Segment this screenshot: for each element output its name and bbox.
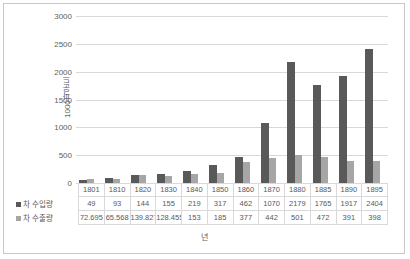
data-table-export-cell: 139.827 — [130, 211, 156, 225]
data-table-import-cell: 49 — [79, 197, 105, 211]
bar-group — [128, 16, 154, 183]
data-table-year-cell: 1840 — [182, 183, 208, 197]
data-table-year-cell: 1801 — [79, 183, 105, 197]
data-table-year-cell: 1890 — [336, 183, 362, 197]
legend-item-export: 차 수출량 — [14, 211, 79, 225]
bar-import[interactable] — [261, 123, 269, 183]
bar-export[interactable] — [217, 173, 225, 183]
data-table-export-cell: 398 — [362, 211, 388, 225]
bar-group — [310, 16, 336, 183]
x-axis-title: 년 — [4, 231, 404, 242]
bar-group — [284, 16, 310, 183]
data-table-year-cell: 1850 — [207, 183, 233, 197]
data-table-export-cell: 472 — [310, 211, 336, 225]
bar-import[interactable] — [287, 62, 295, 183]
data-table-export-cell: 501 — [285, 211, 311, 225]
data-table-export-cell: 65.568 — [104, 211, 130, 225]
bar-group — [180, 16, 206, 183]
bar-import[interactable] — [209, 165, 217, 183]
bar-group — [362, 16, 388, 183]
data-table-year-cell: 1860 — [233, 183, 259, 197]
data-table-year-cell: 1820 — [130, 183, 156, 197]
bar-group — [102, 16, 128, 183]
bar-import[interactable] — [131, 175, 139, 183]
bar-export[interactable] — [321, 157, 329, 183]
bar-export[interactable] — [243, 162, 251, 183]
data-table-year-cell: 1895 — [362, 183, 388, 197]
y-tick-label: 500 — [38, 151, 72, 160]
data-table-year-cell: 1830 — [156, 183, 182, 197]
data-table-export-cell: 185 — [207, 211, 233, 225]
chart-data-table: 1801181018201830184018501860187018801885… — [14, 183, 388, 225]
bar-group — [258, 16, 284, 183]
bar-export[interactable] — [191, 174, 199, 183]
data-table-import-cell: 2404 — [362, 197, 388, 211]
data-table-import-cell: 219 — [182, 197, 208, 211]
data-table-import-cell: 155 — [156, 197, 182, 211]
bar-export[interactable] — [295, 155, 303, 183]
bars-layer — [76, 16, 388, 183]
bar-group — [336, 16, 362, 183]
data-table-import-cell: 1765 — [310, 197, 336, 211]
data-table-year-cell: 1870 — [259, 183, 285, 197]
bar-import[interactable] — [235, 157, 243, 183]
data-table-import-cell: 144 — [130, 197, 156, 211]
bar-export[interactable] — [165, 176, 173, 183]
data-table-row-export: 차 수출량 72.69565.568139.827128.45515318537… — [14, 211, 388, 225]
data-table-export-cell: 72.695 — [79, 211, 105, 225]
data-table-year-cell: 1810 — [104, 183, 130, 197]
data-table-export-cell: 128.455 — [156, 211, 182, 225]
data-table-import-cell: 93 — [104, 197, 130, 211]
data-table-header-row: 1801181018201830184018501860187018801885… — [14, 183, 388, 197]
y-tick-label: 2500 — [38, 39, 72, 48]
legend-label-import: 차 수입량 — [23, 200, 53, 209]
bar-group — [76, 16, 102, 183]
y-tick-label: 3000 — [38, 12, 72, 21]
bar-import[interactable] — [339, 76, 347, 183]
bar-group — [154, 16, 180, 183]
data-table-import-cell: 1070 — [259, 197, 285, 211]
y-axis-title: 1000파운드 — [60, 62, 74, 132]
bar-group — [206, 16, 232, 183]
data-table-import-cell: 462 — [233, 197, 259, 211]
bar-group — [232, 16, 258, 183]
data-table-body: 1801181018201830184018501860187018801885… — [14, 183, 388, 225]
data-table-export-cell: 377 — [233, 211, 259, 225]
bar-export[interactable] — [269, 158, 277, 183]
data-table-export-cell: 442 — [259, 211, 285, 225]
data-table-import-cell: 317 — [207, 197, 233, 211]
legend-label-export: 차 수출량 — [23, 214, 53, 223]
bar-import[interactable] — [313, 85, 321, 183]
legend-swatch-export-icon — [16, 216, 21, 221]
bar-import[interactable] — [157, 174, 165, 183]
data-table-export-cell: 153 — [182, 211, 208, 225]
data-table-import-cell: 2179 — [285, 197, 311, 211]
legend-item-import: 차 수입량 — [14, 197, 79, 211]
plot-area: 300025002000150010005000 1000파운드 1801181… — [4, 4, 404, 253]
data-table-year-cell: 1885 — [310, 183, 336, 197]
legend-swatch-import-icon — [16, 202, 21, 207]
data-table-row-import: 차 수입량 4993144155219317462107021791765191… — [14, 197, 388, 211]
bar-import[interactable] — [183, 171, 191, 183]
data-table-export-cell: 391 — [336, 211, 362, 225]
bar-import[interactable] — [365, 49, 373, 183]
bar-export[interactable] — [347, 161, 355, 183]
data-table-import-cell: 1917 — [336, 197, 362, 211]
bar-export[interactable] — [373, 161, 381, 183]
chart-frame: 300025002000150010005000 1000파운드 1801181… — [3, 3, 405, 254]
data-table-year-cell: 1880 — [285, 183, 311, 197]
data-table-corner-cell — [14, 183, 79, 197]
bar-export[interactable] — [139, 175, 147, 183]
